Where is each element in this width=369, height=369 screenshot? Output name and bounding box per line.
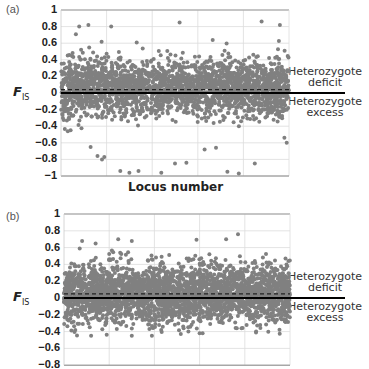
scatter-plots xyxy=(0,0,369,369)
data-points xyxy=(62,232,292,338)
